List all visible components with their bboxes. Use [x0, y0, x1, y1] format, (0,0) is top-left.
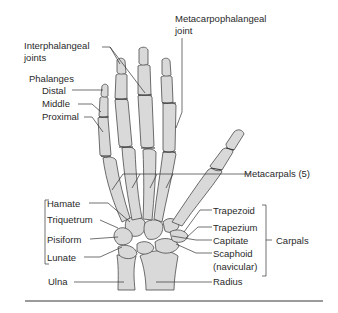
- label-ulna: Ulna: [48, 276, 68, 287]
- label-phalanges: Phalanges: [29, 73, 74, 84]
- little-finger-phalanges: [98, 84, 111, 157]
- label-interphalangeal-joints-line2: joints: [24, 52, 46, 63]
- label-metacarpophalangeal-line1: Metacarpophalangeal: [175, 13, 266, 24]
- ring-finger-phalanges: [115, 58, 132, 147]
- label-pisiform: Pisiform: [47, 234, 81, 245]
- bottom-divider: [25, 300, 323, 302]
- label-capitate: Capitate: [213, 235, 248, 246]
- label-hamate: Hamate: [47, 198, 80, 209]
- label-proximal: Proximal: [42, 111, 79, 122]
- label-trapezium: Trapezium: [213, 222, 258, 233]
- label-metacarpals: Metacarpals (5): [244, 168, 310, 179]
- label-lunate: Lunate: [47, 252, 76, 263]
- label-carpals: Carpals: [276, 235, 309, 246]
- thumb-phalanges: [210, 130, 244, 171]
- label-triquetrum: Triquetrum: [47, 214, 93, 225]
- ulna-bone: [117, 255, 136, 290]
- label-radius: Radius: [213, 276, 243, 287]
- label-scaphoid-line2: (navicular): [213, 261, 257, 272]
- label-scaphoid-line1: Scaphoid: [213, 248, 253, 259]
- label-middle: Middle: [42, 98, 70, 109]
- middle-finger-phalanges: [138, 47, 154, 148]
- radius-bone: [140, 251, 178, 290]
- label-trapezoid: Trapezoid: [213, 205, 255, 216]
- label-distal: Distal: [42, 85, 66, 96]
- label-interphalangeal-joints-line1: Interphalangeal: [24, 40, 90, 51]
- index-finger-phalanges: [161, 58, 176, 152]
- label-metacarpophalangeal-line2: joint: [175, 25, 192, 36]
